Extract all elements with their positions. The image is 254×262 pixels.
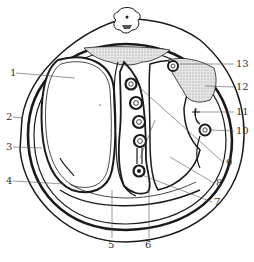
vessel-10 — [200, 125, 211, 136]
label-13: 13 — [236, 59, 249, 69]
label-8: 8 — [216, 178, 222, 188]
neural-tube — [114, 8, 140, 34]
label-1: 1 — [10, 68, 16, 78]
label-4: 4 — [6, 176, 12, 186]
label-2: 2 — [6, 112, 12, 122]
label-6: 6 — [145, 240, 151, 250]
label-11: 11 — [236, 107, 249, 117]
label-12: 12 — [236, 82, 249, 92]
vessel-chain — [126, 79, 147, 177]
vessel-13 — [168, 61, 178, 71]
label-9: 9 — [226, 158, 232, 168]
label-5: 5 — [108, 240, 114, 250]
left-coelom-cavity — [42, 57, 116, 192]
cross-section-diagram — [0, 0, 254, 262]
label-7: 7 — [214, 197, 220, 207]
label-10: 10 — [236, 126, 249, 136]
label-3: 3 — [6, 142, 12, 152]
